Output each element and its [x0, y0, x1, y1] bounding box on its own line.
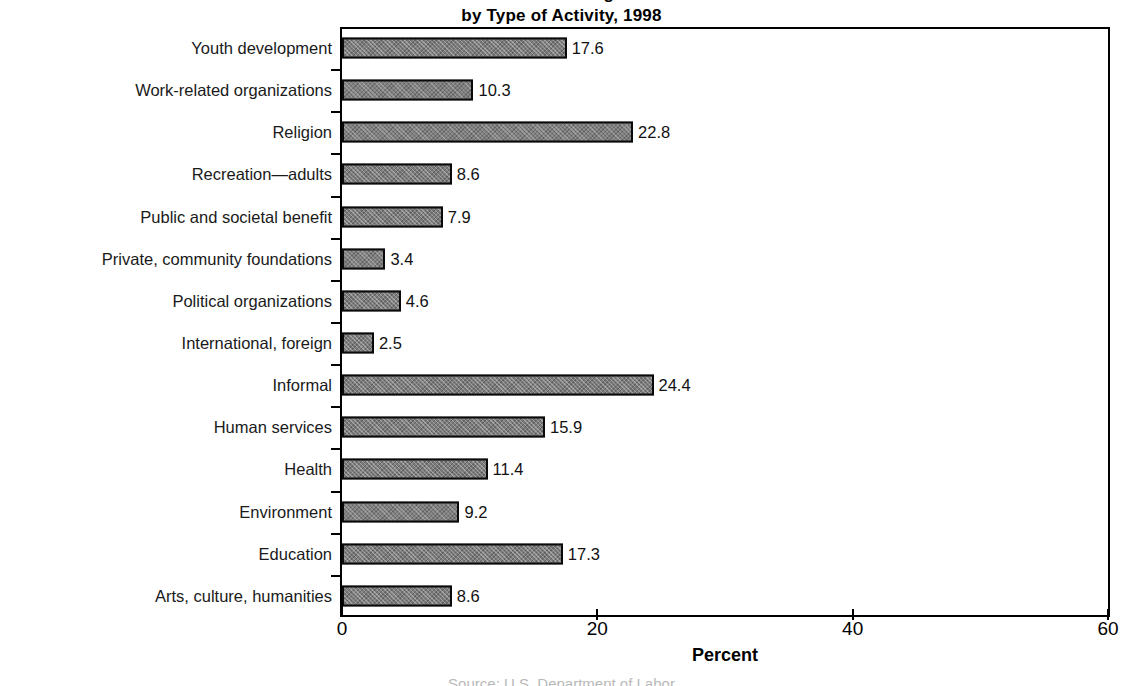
chart-row: Political organizations4.6 [0, 280, 1123, 322]
y-axis-tick [331, 533, 342, 535]
chart-row: Arts, culture, humanities8.6 [0, 575, 1123, 617]
category-label: Political organizations [172, 291, 332, 310]
bar-value-label: 9.2 [464, 502, 487, 521]
chart-title-line-2: by Type of Activity, 1998 [0, 6, 1123, 26]
y-axis-tick [331, 69, 342, 71]
x-axis-tick-label: 40 [842, 618, 863, 640]
y-axis-tick [331, 111, 342, 113]
category-label: International, foreign [182, 334, 332, 353]
bar [342, 333, 374, 354]
category-label: Health [284, 460, 332, 479]
bar [342, 585, 452, 606]
bar-value-label: 22.8 [638, 123, 670, 142]
chart-row: Education17.3 [0, 533, 1123, 575]
chart-row: Health11.4 [0, 448, 1123, 490]
chart-row: Public and societal benefit7.9 [0, 196, 1123, 238]
chart-row: Informal24.4 [0, 364, 1123, 406]
category-label: Private, community foundations [102, 249, 332, 268]
category-label: Religion [272, 123, 332, 142]
chart-row: Private, community foundations3.4 [0, 238, 1123, 280]
x-axis-title: Percent [340, 645, 1110, 666]
bar-value-label: 4.6 [406, 291, 429, 310]
y-axis-tick [331, 238, 342, 240]
category-label: Education [259, 544, 332, 563]
chart-row: Religion22.8 [0, 111, 1123, 153]
bar-chart-figure: Volunteering by Type of Activity, 1998 Y… [0, 0, 1123, 686]
bar [342, 122, 633, 143]
bar [342, 459, 488, 480]
bar-value-label: 10.3 [478, 81, 510, 100]
y-axis-tick [331, 491, 342, 493]
bar-value-label: 17.3 [568, 544, 600, 563]
bar [342, 417, 545, 438]
bar [342, 38, 567, 59]
bar [342, 164, 452, 185]
x-axis-tick-label: 60 [1097, 618, 1118, 640]
category-label: Informal [272, 376, 332, 395]
bar-value-label: 24.4 [659, 376, 691, 395]
category-label: Public and societal benefit [140, 207, 332, 226]
category-label: Work-related organizations [135, 81, 332, 100]
chart-row: Recreation—adults8.6 [0, 153, 1123, 195]
y-axis-tick [331, 196, 342, 198]
bar [342, 501, 459, 522]
category-label: Environment [239, 502, 332, 521]
y-axis-tick [331, 153, 342, 155]
y-axis-tick [331, 280, 342, 282]
chart-row: Work-related organizations10.3 [0, 69, 1123, 111]
bar-value-label: 8.6 [457, 586, 480, 605]
bar-value-label: 3.4 [390, 249, 413, 268]
y-axis-tick [331, 322, 342, 324]
category-label: Human services [214, 418, 332, 437]
chart-row: International, foreign2.5 [0, 322, 1123, 364]
x-axis-tick-label: 20 [587, 618, 608, 640]
y-axis-tick [331, 364, 342, 366]
source-note: Source: U.S. Department of Labor [0, 675, 1123, 686]
bar [342, 290, 401, 311]
bar [342, 543, 563, 564]
x-axis-tick [341, 600, 343, 617]
y-axis-tick [331, 406, 342, 408]
bar-value-label: 8.6 [457, 165, 480, 184]
y-axis-tick [331, 448, 342, 450]
bar [342, 375, 654, 396]
bar [342, 80, 473, 101]
category-label: Arts, culture, humanities [155, 586, 332, 605]
chart-title-line-1: Volunteering [0, 0, 1123, 4]
bar-value-label: 2.5 [379, 334, 402, 353]
category-label: Recreation—adults [192, 165, 332, 184]
bar [342, 248, 385, 269]
y-axis-tick [331, 575, 342, 577]
chart-row: Environment9.2 [0, 491, 1123, 533]
chart-row: Human services15.9 [0, 406, 1123, 448]
chart-title: Volunteering by Type of Activity, 1998 [0, 0, 1123, 26]
bar-value-label: 15.9 [550, 418, 582, 437]
bar-value-label: 7.9 [448, 207, 471, 226]
category-label: Youth development [191, 39, 332, 58]
bar-value-label: 17.6 [572, 39, 604, 58]
chart-row: Youth development17.6 [0, 27, 1123, 69]
x-axis-tick-label: 0 [337, 618, 348, 640]
bar-value-label: 11.4 [493, 460, 524, 479]
bar [342, 206, 443, 227]
